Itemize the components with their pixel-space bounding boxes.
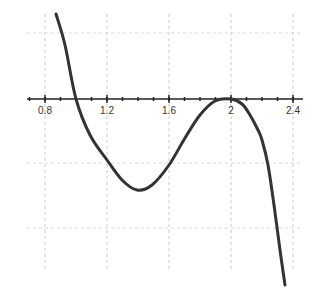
function-plot: 0.81.21.622.4 xyxy=(0,0,315,300)
x-tick-label: 2.4 xyxy=(286,105,300,116)
x-tick-label: 2 xyxy=(228,105,234,116)
x-tick-label: 1.6 xyxy=(162,105,176,116)
x-axis xyxy=(27,95,303,103)
x-tick-label: 1.2 xyxy=(100,105,114,116)
function-curve xyxy=(56,14,285,285)
x-tick-label: 0.8 xyxy=(38,105,52,116)
